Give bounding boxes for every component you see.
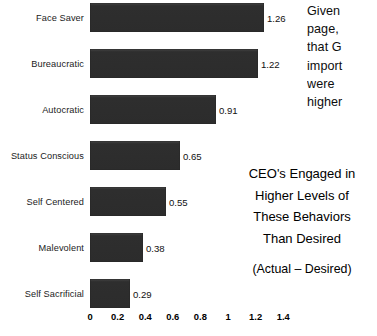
chart-caption: CEO's Engaged in Higher Levels of These … bbox=[228, 163, 376, 249]
bar-value-label: 0.91 bbox=[216, 104, 238, 115]
chart-bar-row: Face Saver 1.26 bbox=[0, 3, 300, 32]
x-axis-tick: 0.8 bbox=[194, 311, 207, 323]
bar-value-label: 0.29 bbox=[130, 288, 152, 299]
x-axis-tick: 1 bbox=[225, 311, 230, 323]
caption-line: CEO's Engaged in bbox=[228, 163, 376, 185]
body-text-line: were bbox=[307, 75, 377, 93]
bar-rect bbox=[90, 279, 130, 308]
bar-category-label: Face Saver bbox=[0, 12, 84, 23]
bar-rect bbox=[90, 3, 264, 32]
x-axis-tick: 0.6 bbox=[166, 311, 179, 323]
bar-rect bbox=[90, 233, 143, 262]
bar-value-label: 1.26 bbox=[264, 12, 286, 23]
bar-value-label: 0.38 bbox=[143, 242, 165, 253]
caption-line: Higher Levels of bbox=[228, 185, 376, 207]
bar-value-label: 1.22 bbox=[258, 58, 280, 69]
body-text-line: that G bbox=[307, 38, 377, 56]
bar-rect bbox=[90, 49, 258, 78]
caption-line: Than Desired bbox=[228, 228, 376, 250]
bar-category-label: Self Sacrificial bbox=[0, 288, 84, 299]
bar-rect bbox=[90, 187, 166, 216]
x-axis: 0 0.2 0.4 0.6 0.8 1 1.2 1.4 bbox=[90, 311, 290, 327]
bar-value-label: 0.55 bbox=[166, 196, 188, 207]
x-axis-tick: 0.4 bbox=[139, 311, 152, 323]
bar-category-label: Autocratic bbox=[0, 104, 84, 115]
bar-category-label: Bureaucratic bbox=[0, 58, 84, 69]
bar-rect bbox=[90, 141, 180, 170]
x-axis-tick: 1.2 bbox=[249, 311, 262, 323]
bar-category-label: Self Centered bbox=[0, 196, 84, 207]
chart-bar-row: Bureaucratic 1.22 bbox=[0, 49, 300, 78]
bar-value-label: 0.65 bbox=[180, 150, 202, 161]
bar-category-label: Malevolent bbox=[0, 242, 84, 253]
x-axis-tick: 1.4 bbox=[277, 311, 290, 323]
body-text-line: page, bbox=[307, 20, 377, 38]
bar-category-label: Status Conscious bbox=[0, 150, 84, 161]
caption-line: These Behaviors bbox=[228, 206, 376, 228]
x-axis-tick: 0 bbox=[87, 311, 92, 323]
chart-caption-subtitle: (Actual – Desired) bbox=[228, 261, 376, 278]
body-text-line: Given bbox=[307, 2, 377, 20]
bar-rect bbox=[90, 95, 216, 124]
body-text-column: Given page, that G import were higher bbox=[307, 2, 377, 111]
body-text-line: higher bbox=[307, 93, 377, 111]
chart-bar-row: Autocratic 0.91 bbox=[0, 95, 300, 124]
x-axis-tick: 0.2 bbox=[111, 311, 124, 323]
body-text-line: import bbox=[307, 57, 377, 75]
chart-bar-row: Self Sacrificial 0.29 bbox=[0, 279, 300, 308]
